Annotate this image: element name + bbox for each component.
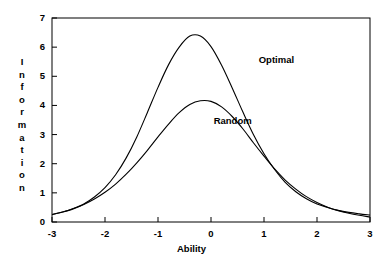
chart-figure: Information Ability 01234567-3-2-10123 O… [0, 0, 383, 264]
y-axis-title-letter-6: a [14, 132, 30, 145]
x-tick-label--1: -1 [148, 228, 168, 239]
x-tick-label-0: 0 [201, 228, 221, 239]
y-axis-title-letter-8: i [14, 157, 30, 170]
plot-frame [52, 18, 370, 222]
y-axis-title-letter-4: r [14, 106, 30, 119]
y-tick-label-5: 5 [31, 70, 45, 81]
y-tick-label-0: 0 [31, 216, 45, 227]
y-tick-label-7: 7 [31, 12, 45, 23]
x-tick-label-3: 3 [360, 228, 380, 239]
y-axis-title-letter-2: f [14, 81, 30, 94]
x-axis-title: Ability [0, 243, 383, 254]
y-tick-label-4: 4 [31, 99, 45, 110]
y-axis-title-letter-7: t [14, 144, 30, 157]
x-tick-label--2: -2 [95, 228, 115, 239]
x-tick-label-2: 2 [307, 228, 327, 239]
y-axis-title-letter-5: m [14, 119, 30, 132]
y-axis-title-letter-3: o [14, 94, 30, 107]
y-axis-title-letter-9: o [14, 169, 30, 182]
y-tick-label-1: 1 [31, 187, 45, 198]
curve-label-random: Random [214, 115, 252, 126]
y-tick-label-3: 3 [31, 129, 45, 140]
curve-label-optimal: Optimal [259, 54, 294, 65]
y-axis-title-letter-1: n [14, 69, 30, 82]
y-tick-label-6: 6 [31, 41, 45, 52]
x-tick-label-1: 1 [254, 228, 274, 239]
x-tick-label--3: -3 [42, 228, 62, 239]
plot-canvas [0, 0, 383, 264]
y-tick-label-2: 2 [31, 158, 45, 169]
y-axis-title-letter-0: I [14, 56, 30, 69]
y-axis-title-letter-10: n [14, 182, 30, 195]
y-axis-title: Information [14, 56, 30, 195]
